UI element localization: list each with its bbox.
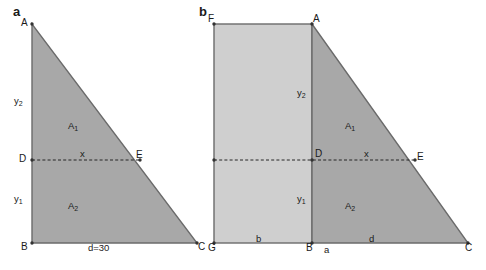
panel-a-label-y2: y2 (14, 96, 23, 109)
panel-b-label-d: D (315, 149, 322, 159)
panel-b-label-area2: A2 (345, 201, 355, 214)
panel-a-label-a: A (21, 18, 28, 28)
panel-b-label-d-side: d (369, 234, 374, 244)
panel-b-label-c: C (465, 243, 472, 253)
panel-b-label-y1: y1 (297, 194, 306, 207)
panel-b-label-b: B (306, 243, 313, 253)
panel-b-label-area1: A1 (345, 121, 355, 134)
panel-a-label-area1: A1 (68, 121, 78, 134)
panel-b-label-y2: y2 (297, 88, 306, 101)
panel-a-label-d: D (19, 154, 26, 164)
panel-b-label-f: F (208, 14, 214, 24)
panel-a-shapes (30, 22, 198, 244)
panel-b-label-a-side: a (324, 245, 329, 255)
panel-b-letter: b (199, 4, 207, 19)
panel-a-label-c: C (198, 242, 205, 252)
panel-a-vertex-a-dot (30, 22, 33, 25)
panel-b-label-b-side: b (256, 234, 261, 244)
panel-a-label-x: x (80, 149, 85, 159)
panel-a-label-y1: y1 (14, 194, 23, 207)
panel-a-label-e: E (136, 150, 143, 160)
panel-b-label-g: G (208, 243, 216, 253)
geometry-figure: a A B C D E y2 y1 A1 A2 x d=30 b F A G B… (0, 0, 486, 270)
panel-a-vertex-b-dot (30, 241, 33, 244)
panel-a-label-b: B (21, 242, 28, 252)
panel-b-label-a: A (313, 14, 320, 24)
panel-b-label-x: x (364, 149, 369, 159)
panel-a-vertex-d-dot (30, 158, 33, 161)
figure-canvas (0, 0, 486, 270)
panel-b-vertex-d-dot (310, 158, 313, 161)
panel-b-shapes (212, 22, 469, 244)
panel-a-label-base: d=30 (88, 243, 109, 253)
panel-a-letter: a (13, 4, 20, 19)
panel-b-rectangle-fill (214, 24, 312, 243)
panel-b-vertex-left-mid-dot (212, 158, 215, 161)
panel-a-label-area2: A2 (68, 201, 78, 214)
panel-b-label-e: E (417, 152, 424, 162)
